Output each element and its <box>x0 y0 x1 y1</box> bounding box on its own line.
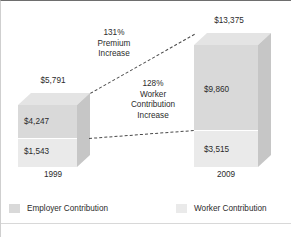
bar-1999-segment-divider <box>18 138 77 139</box>
connector-line-worker <box>89 130 194 139</box>
legend-item-worker: Worker Contribution <box>176 204 267 213</box>
annotation-worker-line1: 128% <box>123 79 183 90</box>
bar-total-label-1999: $5,791 <box>21 76 85 87</box>
annotation-worker-line2: Worker <box>123 90 183 101</box>
bar-total-label-2009: $13,375 <box>197 16 261 27</box>
bar-1999-category-label: 1999 <box>21 170 85 181</box>
bar-2009-side-face <box>258 33 271 167</box>
bar-1999-side-face <box>77 93 90 167</box>
annotation-worker-line4: Increase <box>123 111 183 122</box>
bar-2009-category-label: 2009 <box>194 170 258 181</box>
bar-1999-worker-value: $1,543 <box>24 147 49 158</box>
bar-2009-worker-value: $3,515 <box>204 145 229 156</box>
bar-2009-segment-divider <box>194 130 258 131</box>
legend-label-employer: Employer Contribution <box>27 204 108 213</box>
chart-container: $5,791 $4,247 $1,543 1999 $13,375 $9,860… <box>0 0 291 237</box>
annotation-premium-line2: Premium <box>90 39 138 50</box>
legend-label-worker: Worker Contribution <box>194 204 267 213</box>
bar-1999-employer-value: $4,247 <box>24 117 49 128</box>
annotation-premium-increase: 131% Premium Increase <box>90 28 138 60</box>
legend-swatch-worker-icon <box>176 204 187 213</box>
annotation-premium-line3: Increase <box>90 49 138 60</box>
annotation-worker-contribution-increase: 128% Worker Contribution Increase <box>123 79 183 121</box>
annotation-premium-line1: 131% <box>90 28 138 39</box>
bar-2009-employer-value: $9,860 <box>204 85 229 96</box>
legend-swatch-employer-icon <box>9 204 20 213</box>
bar-2009-top-face <box>194 33 271 45</box>
legend-item-employer: Employer Contribution <box>9 204 108 213</box>
bottom-divider <box>1 223 291 224</box>
annotation-worker-line3: Contribution <box>123 100 183 111</box>
